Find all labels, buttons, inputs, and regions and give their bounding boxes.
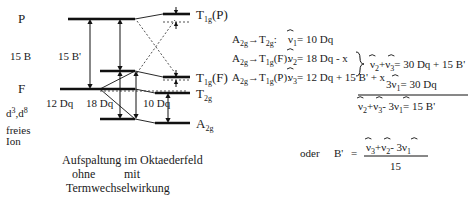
dashed-crossing-lower xyxy=(137,20,175,73)
svg-text:ν2= 18 Dq - x: ν2= 18 Dq - x xyxy=(288,52,348,67)
frac-nu1-sub: 1 xyxy=(407,147,411,156)
config-sup-8: 8 xyxy=(24,106,28,115)
label-10Dq: 10 Dq xyxy=(143,97,171,109)
frac-nu3-tilde-icon xyxy=(365,138,371,139)
transition-2-arrow: → xyxy=(248,52,259,64)
measure-arrow-18Dq xyxy=(133,71,138,119)
result-equation: ν2+ν3- 3ν1= 15 B' xyxy=(357,97,435,115)
term-T2g-sub: 2g xyxy=(204,94,212,103)
nu2-tilde-icon xyxy=(287,49,293,50)
nu-equation-2: ν2= 18 Dq - x xyxy=(287,49,348,67)
term-label-A2g: A2g xyxy=(196,116,213,133)
nu3-tilde-icon xyxy=(287,68,293,69)
transition-2-from-sub: 2g xyxy=(240,58,248,67)
term-label-T2g: T2g xyxy=(196,86,212,103)
transition-row-1: A2g→T2g: xyxy=(232,33,277,48)
transition-row-3: A2g→T1g(P): xyxy=(232,71,290,86)
nu-equation-3: ν3= 12 Dq + 15 B' + x xyxy=(287,68,386,86)
sum-nu2-tilde-icon xyxy=(369,55,375,56)
correlation-F-to-T1gF xyxy=(100,71,135,89)
nu2-rhs: = 18 Dq - x xyxy=(297,52,348,64)
res-nu1-tilde-icon xyxy=(403,97,409,98)
nu1-tilde-icon xyxy=(287,30,293,31)
bprime-symbol: B' xyxy=(334,147,343,159)
repulsion-arrow-T1gF xyxy=(174,70,178,87)
transition-3-from: A xyxy=(232,71,240,83)
term-label-T1g-P: T1g(P) xyxy=(196,7,228,24)
transition-3-from-sub: 2g xyxy=(240,77,248,86)
three-nu-rhs: = 30 Dq xyxy=(400,78,437,90)
res-nu2-tilde-icon xyxy=(357,97,363,98)
transition-2-from: A xyxy=(232,52,240,64)
repulsion-arrow-T1gP xyxy=(174,7,178,29)
free-ion-configuration: d3,d8 freies Ion xyxy=(6,106,30,147)
res-rhs: = 15 B' xyxy=(403,100,435,112)
res-minus-three: - 3 xyxy=(382,100,394,112)
nu-equation-1: ν1= 10 Dq xyxy=(287,30,334,48)
frac-nu1-tilde-icon xyxy=(411,138,417,139)
frac-minus-three: - 3 xyxy=(390,141,402,153)
oder-label: oder xyxy=(300,147,320,159)
transition-1-to-paren: : xyxy=(274,33,277,45)
correlation-mid-T1gF-to-right xyxy=(135,71,163,77)
frac-nu2-tilde-icon xyxy=(384,138,390,139)
tanabe-sugano-correlation-diagram: P F 15 B 15 B' 12 Dq 18 Dq 10 Dq d3,d8 f… xyxy=(0,0,476,201)
transition-1-from-sub: 2g xyxy=(240,39,248,48)
free-ion-term-P-label: P xyxy=(18,11,25,26)
fraction-denominator: 15 xyxy=(390,160,402,172)
label-15Bprime: 15 B' xyxy=(58,50,81,62)
transition-1-to-sub: 2g xyxy=(266,39,274,48)
correlation-mid-A2g-to-right xyxy=(135,119,155,123)
transition-1-from: A xyxy=(232,33,240,45)
res-nu3-tilde-icon xyxy=(376,97,382,98)
svg-text:ν3= 12 Dq + 15 B' + x: ν3= 12 Dq + 15 B' + x xyxy=(288,71,386,86)
caption-ohne: ohne xyxy=(72,167,95,181)
term-label-T1g-F: T1g(F) xyxy=(196,70,228,87)
transition-3-to-sub: 1g xyxy=(266,77,274,86)
measure-arrow-15Bprime xyxy=(117,19,122,71)
transition-2-to-sub: 1g xyxy=(266,58,274,67)
term-A2g-sub: 2g xyxy=(205,124,213,133)
fraction-numerator: ν3+ν2- 3ν1 xyxy=(366,141,411,156)
transition-3-arrow: → xyxy=(248,71,259,83)
term-T1gP-paren: (P) xyxy=(212,7,228,22)
sum-nu3-tilde-icon xyxy=(388,55,394,56)
nu1-rhs: = 10 Dq xyxy=(297,33,334,45)
transition-1-arrow: → xyxy=(248,33,259,45)
bprime-equals: = xyxy=(351,147,357,159)
svg-text:ν2+ν3- 3ν1= 15 B': ν2+ν3- 3ν1= 15 B' xyxy=(358,100,435,115)
term-T1gP-letter: T xyxy=(196,7,204,22)
label-12Dq: 12 Dq xyxy=(46,97,74,109)
caption-mit: mit xyxy=(124,167,141,181)
svg-text:3ν1= 30 Dq: 3ν1= 30 Dq xyxy=(386,78,437,93)
caption-line3: Termwechselwirkung xyxy=(66,181,170,195)
three-nu-tilde-icon xyxy=(392,75,398,76)
nu3-rhs: = 12 Dq + 15 B' + x xyxy=(297,71,386,83)
term-T1gF-letter: T xyxy=(196,70,204,85)
label-15B: 15 B xyxy=(10,50,31,62)
bprime-final-formula: B' = ν3+ν2- 3ν1 15 xyxy=(334,138,428,172)
label-18Dq: 18 Dq xyxy=(86,97,114,109)
three-nu1-equation: 3ν1= 30 Dq xyxy=(386,75,437,93)
sum-rhs: = 30 Dq + 15 B' xyxy=(394,58,465,70)
free-ion-line2: Ion xyxy=(6,135,21,147)
figure-root: P F 15 B 15 B' 12 Dq 18 Dq 10 Dq d3,d8 f… xyxy=(0,0,476,201)
svg-text:ν1= 10 Dq: ν1= 10 Dq xyxy=(288,33,334,48)
svg-text:d3,d8: d3,d8 xyxy=(6,106,28,119)
correlation-mid-P-to-right-T1gP xyxy=(135,14,163,19)
term-T2g-letter: T xyxy=(196,86,204,101)
measure-arrow-15B xyxy=(87,19,92,89)
term-T1gF-paren: (F) xyxy=(212,70,228,85)
term-T1gF-sub: 1g xyxy=(204,78,212,87)
caption-line1: Aufspaltung im Oktaederfeld xyxy=(62,153,203,167)
term-T1gP-sub: 1g xyxy=(204,15,212,24)
free-ion-term-F-label: F xyxy=(18,81,25,96)
transition-row-2: A2g→T1g(F): xyxy=(232,52,290,67)
